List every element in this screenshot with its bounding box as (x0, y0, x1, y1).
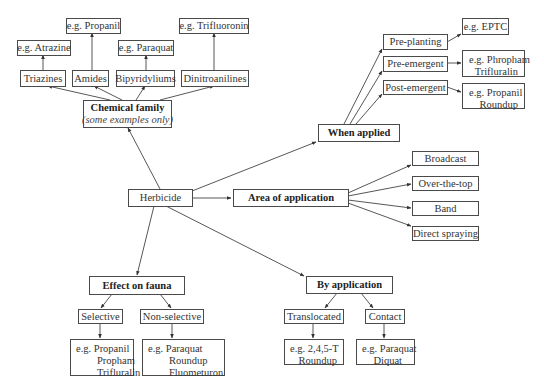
example-non-selective: e.g. Paraquat Roundup Fluometuron (142, 339, 225, 376)
area-of-application-node: Area of application (233, 189, 349, 207)
family-bipyridyliums: Bipyridyliums (116, 70, 175, 87)
when-applied-node: When applied (318, 124, 400, 142)
family-triazines: Triazines (20, 70, 66, 87)
example-trifluoronin: e.g. Trifluoronin (179, 18, 249, 34)
by-application-node: By application (306, 276, 393, 294)
chemical-family-subtitle: (some examples only) (82, 114, 173, 126)
chemical-family-node: Chemical family (some examples only) (83, 100, 172, 128)
family-dinitroanilines: Dinitroanilines (181, 70, 249, 87)
timing-pre-emergent: Pre-emergent (383, 56, 448, 72)
timing-pre-planting: Pre-planting (383, 34, 448, 50)
example-propanil: e.g. Propanil (66, 18, 121, 34)
family-amides: Amides (72, 70, 109, 87)
example-translocated: e.g. 2,4,5-T Roundup (284, 339, 344, 365)
area-direct-spraying: Direct spraying (412, 226, 479, 241)
timing-post-emergent: Post-emergent (383, 80, 448, 95)
example-paraquat: e.g. Paraquat (118, 40, 174, 56)
area-over-the-top: Over-the-top (412, 176, 479, 191)
root-herbicide: Herbicide (128, 189, 193, 207)
chemical-family-title: Chemical family (91, 102, 165, 114)
fauna-non-selective: Non-selective (140, 309, 204, 324)
application-contact: Contact (365, 309, 405, 324)
fauna-selective: Selective (78, 309, 123, 324)
example-eptc: e.g. EPTC (462, 18, 509, 35)
effect-on-fauna-node: Effect on fauna (89, 276, 185, 295)
area-band: Band (412, 201, 479, 216)
example-atrazine: e.g. Atrazine (17, 40, 71, 56)
example-phropham-trifluralin: e.g. Phropham Trifluralin (462, 50, 525, 77)
area-broadcast: Broadcast (412, 151, 479, 166)
example-propanil-roundup: e.g. Propanil Roundup (462, 83, 525, 109)
herbicide-classification-diagram: e.g. Atrazine e.g. Propanil e.g. Paraqua… (0, 0, 544, 392)
example-contact: e.g. Paraquat Diquat (356, 339, 415, 365)
example-selective: e.g. Propanil Propham Trifluralin (70, 339, 134, 376)
application-translocated: Translocated (284, 309, 344, 324)
